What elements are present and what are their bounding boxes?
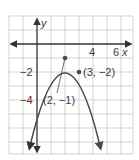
parabola-graph: y 4 6 x −2 −4 (2, −1) (3, −2) bbox=[0, 0, 139, 160]
point-label: (3, −2) bbox=[83, 66, 115, 78]
y-tick-neg2: −2 bbox=[20, 66, 33, 78]
x-tick-6: 6 bbox=[113, 46, 119, 58]
x-tick-4: 4 bbox=[89, 46, 95, 58]
vertex-label: (2, −1) bbox=[43, 94, 75, 106]
vertex-point bbox=[63, 56, 68, 61]
grid bbox=[9, 16, 133, 154]
y-tick-neg4: −4 bbox=[20, 94, 33, 106]
y-axis-label: y bbox=[40, 17, 48, 29]
point-3-neg2 bbox=[77, 70, 82, 75]
x-axis-label: x bbox=[121, 46, 128, 58]
